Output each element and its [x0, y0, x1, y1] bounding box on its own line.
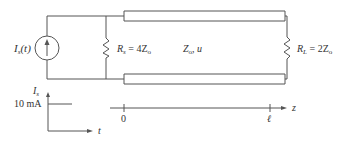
waveform-ylabel: Is — [32, 85, 39, 98]
z-tick-0: 0 — [121, 113, 126, 124]
z-tick-l: ℓ — [267, 113, 271, 124]
load-resistor-icon — [284, 37, 290, 59]
rs-label: Rs = 4Zo — [116, 43, 152, 56]
z-axis — [110, 104, 287, 112]
source-label: Is(t) — [13, 42, 31, 56]
source-resistor-icon — [103, 38, 109, 58]
current-source-icon — [35, 36, 59, 60]
rl-label: RL = 2Zo — [296, 43, 333, 56]
line-label: Zo, u — [183, 43, 202, 56]
waveform-xlabel: t — [98, 125, 101, 136]
z-axis-label: z — [291, 102, 296, 113]
right-wiring — [285, 16, 287, 79]
waveform-level-label: 10 mA — [14, 98, 42, 109]
source-waveform-plot — [46, 92, 93, 133]
transmission-line-circuit-diagram: Is(t) Rs = 4Zo Zo, u RL = 2Zo Is 10 mA t — [0, 0, 345, 144]
